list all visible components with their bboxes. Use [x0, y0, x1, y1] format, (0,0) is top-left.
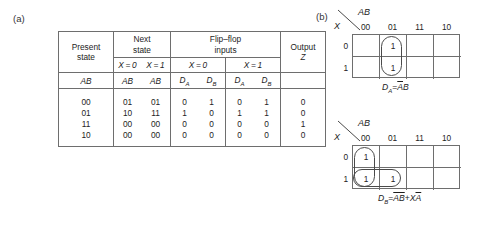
bottom-cell — [141, 140, 171, 147]
cell-db-x1: 1 — [253, 96, 281, 107]
bottom-cell — [226, 140, 254, 147]
table-row: 00 01 01 0 1 0 1 0 — [59, 96, 326, 107]
cell-da-x0: 0 — [171, 129, 199, 140]
kmap-da-rhs-term-1: B — [403, 82, 409, 92]
spacer-cell — [141, 89, 171, 97]
header-next-x0: X = 0 — [114, 58, 142, 73]
table-row: 01 10 11 1 0 1 1 0 — [59, 107, 326, 118]
kmap-da-col-header-10: 10 — [433, 22, 460, 32]
header-var-present-ab: AB — [59, 73, 114, 89]
header-ff-x0: X = 0 — [171, 58, 226, 73]
cell-next-x1: 01 — [141, 96, 171, 107]
bottom-cell — [114, 140, 142, 147]
state-transition-table: Present state Next state Flip–flop input… — [58, 31, 326, 147]
kmap-db-col-header-11: 11 — [406, 133, 433, 143]
kmap-db-rhs-term-4: A — [416, 193, 422, 203]
kmap-db-row-header-1: 1 — [330, 174, 348, 184]
kmap-db-row-header-0: 0 — [330, 152, 348, 162]
spacer-cell — [281, 89, 326, 97]
table-header-row-main: Present state Next state Flip–flop input… — [59, 32, 326, 58]
cell-db-x0: 0 — [198, 129, 226, 140]
bottom-cell — [253, 140, 281, 147]
bottom-cell — [171, 140, 199, 147]
kmap-da-cell-r1c3 — [434, 57, 461, 79]
kmap-db-ab-label: AB — [358, 118, 370, 128]
kmap-da-col-header-01: 01 — [379, 22, 406, 32]
cell-db-x0: 1 — [198, 96, 226, 107]
kmap-da-group-loop — [381, 36, 402, 76]
kmap-da-equation: DA=AB — [382, 82, 409, 94]
table-row: 11 00 00 0 0 0 0 1 — [59, 118, 326, 129]
cell-present-state: 00 — [59, 96, 114, 107]
cell-next-x1: 11 — [141, 107, 171, 118]
kmap-da-grid: 1 1 — [352, 34, 460, 78]
kmap-db-col-header-00: 00 — [352, 133, 379, 143]
table-row: 10 00 00 0 0 0 0 0 — [59, 129, 326, 140]
kmap-da-col-header-00: 00 — [352, 22, 379, 32]
cell-output-z: 1 — [281, 118, 326, 129]
header-var-da-x0: DA — [171, 73, 199, 89]
header-var-da-x1: DA — [226, 73, 254, 89]
kmap-db-col-header-01: 01 — [379, 133, 406, 143]
cell-db-x1: 1 — [253, 107, 281, 118]
table-bottom-row — [59, 140, 326, 147]
cell-next-x0: 00 — [114, 118, 142, 129]
header-var-z-spacer — [281, 73, 326, 89]
kmap-db-cell-r0c2 — [407, 146, 434, 168]
bottom-cell — [281, 140, 326, 147]
kmap-da-cell-r1c0 — [353, 57, 380, 79]
kmap-db-cell-r0c1 — [380, 146, 407, 168]
kmap-da-cell-r1c2 — [407, 57, 434, 79]
kmap-da-cell-r0c0 — [353, 35, 380, 57]
header-output-z: Output Z — [281, 32, 326, 73]
spacer-cell — [198, 89, 226, 97]
spacer-cell — [226, 89, 254, 97]
kmap-da-row-header-0: 0 — [330, 41, 348, 51]
header-ff-x1: X = 1 — [226, 58, 281, 73]
cell-da-x0: 0 — [171, 96, 199, 107]
cell-next-x1: 00 — [141, 118, 171, 129]
cell-da-x1: 0 — [226, 96, 254, 107]
kmap-da-cell-r0c3 — [434, 35, 461, 57]
cell-present-state: 01 — [59, 107, 114, 118]
panel-label-a: (a) — [13, 13, 25, 24]
header-var-next-ab-x1: AB — [141, 73, 171, 89]
header-var-db-x1: DB — [253, 73, 281, 89]
cell-next-x0: 01 — [114, 96, 142, 107]
cell-db-x1: 0 — [253, 129, 281, 140]
cell-da-x1: 0 — [226, 129, 254, 140]
header-next-state: Next state — [114, 32, 171, 58]
kmap-db-cell-r1c3 — [434, 168, 461, 190]
kmap-db-group-loop-horizontal — [353, 169, 401, 187]
cell-da-x1: 1 — [226, 107, 254, 118]
kmap-db-cell-r1c2 — [407, 168, 434, 190]
cell-da-x0: 1 — [171, 107, 199, 118]
kmap-db-col-header-10: 10 — [433, 133, 460, 143]
cell-db-x1: 0 — [253, 118, 281, 129]
cell-output-z: 0 — [281, 107, 326, 118]
cell-present-state: 11 — [59, 118, 114, 129]
cell-next-x0: 10 — [114, 107, 142, 118]
kmap-db-cell-r0c3 — [434, 146, 461, 168]
header-var-next-ab-x0: AB — [114, 73, 142, 89]
kmap-da-row-header-1: 1 — [330, 63, 348, 73]
cell-present-state: 10 — [59, 129, 114, 140]
spacer-cell — [253, 89, 281, 97]
kmap-da-ab-label: AB — [358, 7, 370, 17]
header-flipflop-inputs: Flip–flop inputs — [171, 32, 281, 58]
cell-output-z: 0 — [281, 129, 326, 140]
cell-output-z: 0 — [281, 96, 326, 107]
cell-db-x0: 0 — [198, 107, 226, 118]
header-next-x1: X = 1 — [141, 58, 171, 73]
table-spacer-row — [59, 89, 326, 97]
table-header-row-variables: AB AB AB DA DB DA DB — [59, 73, 326, 89]
cell-db-x0: 0 — [198, 118, 226, 129]
header-present-state: Present state — [59, 32, 114, 73]
bottom-cell — [59, 140, 114, 147]
kmap-db-equation: DB=AB+XA — [378, 193, 421, 205]
spacer-cell — [171, 89, 199, 97]
cell-next-x0: 00 — [114, 129, 142, 140]
kmap-da-col-header-11: 11 — [406, 22, 433, 32]
cell-da-x0: 0 — [171, 118, 199, 129]
kmap-da-cell-r0c2 — [407, 35, 434, 57]
